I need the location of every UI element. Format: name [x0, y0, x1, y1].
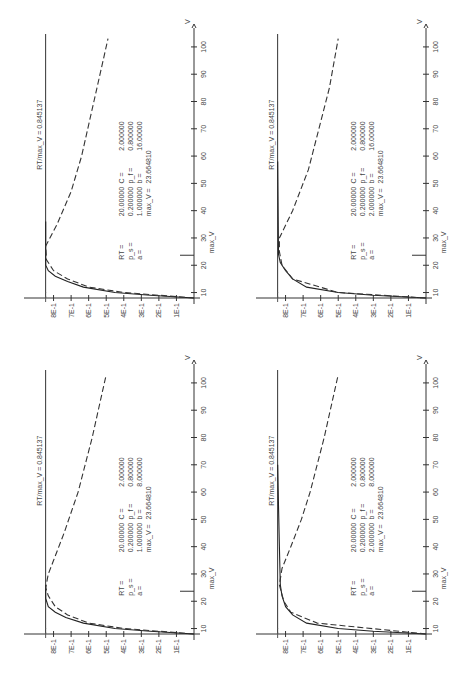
param-text: C =: [118, 172, 125, 183]
x-tick-label: 30: [200, 570, 207, 578]
max-v-marker-label: max_V: [440, 231, 448, 253]
reference-line-label: RT/max_V = 0.845137: [36, 436, 44, 506]
param-text: 2.000000: [118, 457, 125, 486]
param-text: b =: [136, 509, 143, 519]
x-tick-label: 60: [432, 488, 439, 496]
x-axis-label: V: [416, 355, 423, 360]
y-tick-label: 2E-1: [155, 639, 162, 654]
param-text: 23.664810: [145, 150, 152, 183]
x-tick-label: 40: [432, 543, 439, 551]
y-tick-label: 3E-1: [370, 303, 377, 318]
chart-panel-bottom-right: V1020304050607080901001E-12E-13E-14E-15E…: [232, 336, 464, 672]
y-tick-label: 7E-1: [68, 303, 75, 318]
y-tick-label: 8E-1: [50, 303, 57, 318]
x-tick-label: 70: [200, 461, 207, 469]
x-tick-label: 40: [200, 543, 207, 551]
param-text: 0.800000: [127, 457, 134, 486]
param-text: b =: [368, 173, 375, 183]
param-text: 1.000000: [136, 187, 143, 216]
x-tick-label: 20: [200, 261, 207, 269]
param-text: 1.000000: [136, 523, 143, 552]
param-text: a =: [136, 250, 143, 260]
x-tick-label: 10: [200, 289, 207, 297]
y-tick-label: 8E-1: [282, 303, 289, 318]
y-tick-label: 5E-1: [103, 303, 110, 318]
chart-svg: V1020304050607080901001E-12E-13E-14E-15E…: [0, 336, 232, 672]
x-tick-label: 40: [432, 207, 439, 215]
x-tick-label: 90: [200, 406, 207, 414]
param-text: a =: [368, 586, 375, 596]
param-text: C =: [350, 172, 357, 183]
x-tick-label: 40: [200, 207, 207, 215]
x-tick-label: 80: [432, 98, 439, 106]
param-text: p_s =: [359, 242, 367, 259]
param-text: 0.200000: [127, 187, 134, 216]
y-tick-label: 8E-1: [50, 639, 57, 654]
y-tick-label: 3E-1: [138, 639, 145, 654]
x-tick-label: 100: [200, 41, 207, 53]
x-tick-label: 70: [200, 125, 207, 133]
param-text: RT =: [350, 245, 357, 260]
param-text: 20.00000: [350, 523, 357, 552]
x-tick-label: 80: [432, 434, 439, 442]
param-text: 23.664810: [377, 486, 384, 519]
param-text: 2.000000: [350, 457, 357, 486]
param-text: a =: [368, 250, 375, 260]
param-text: RT =: [118, 581, 125, 596]
param-text: max_V =: [377, 524, 385, 552]
param-text: 0.800000: [127, 121, 134, 150]
param-text: p_f =: [359, 504, 367, 520]
param-text: max_V =: [377, 188, 385, 216]
param-text: 2.000000: [118, 121, 125, 150]
x-tick-label: 50: [200, 515, 207, 523]
param-text: 20.00000: [118, 523, 125, 552]
y-tick-label: 6E-1: [85, 639, 92, 654]
y-tick-label: 2E-1: [387, 303, 394, 318]
y-tick-label: 2E-1: [155, 303, 162, 318]
param-text: 2.000000: [368, 523, 375, 552]
x-tick-label: 30: [200, 234, 207, 242]
series-solid-line: [46, 222, 194, 298]
y-tick-label: 1E-1: [173, 639, 180, 654]
x-axis-label: V: [184, 19, 191, 24]
y-tick-label: 5E-1: [335, 303, 342, 318]
y-tick-label: 6E-1: [317, 303, 324, 318]
reference-line-label: RT/max_V = 0.845137: [268, 100, 276, 170]
y-tick-label: 3E-1: [370, 639, 377, 654]
param-text: p_f =: [359, 168, 367, 184]
x-tick-label: 90: [200, 70, 207, 78]
y-tick-label: 5E-1: [335, 639, 342, 654]
reference-line-label: RT/max_V = 0.845137: [36, 100, 44, 170]
param-text: C =: [350, 508, 357, 519]
y-tick-label: 1E-1: [405, 303, 412, 318]
chart-panel-top-right: V1020304050607080901001E-12E-13E-14E-15E…: [232, 0, 464, 336]
param-text: b =: [368, 509, 375, 519]
param-text: 0.200000: [127, 523, 134, 552]
x-tick-label: 90: [432, 70, 439, 78]
param-text: 0.800000: [359, 121, 366, 150]
x-tick-label: 100: [432, 41, 439, 53]
x-tick-label: 80: [200, 434, 207, 442]
y-tick-label: 4E-1: [120, 303, 127, 318]
x-tick-label: 20: [200, 597, 207, 605]
x-tick-label: 60: [432, 152, 439, 160]
param-text: 0.200000: [359, 523, 366, 552]
param-text: RT =: [118, 245, 125, 260]
param-text: 16.00000: [136, 121, 143, 150]
chart-panel-bottom-left: V1020304050607080901001E-12E-13E-14E-15E…: [0, 336, 232, 672]
y-tick-label: 8E-1: [282, 639, 289, 654]
x-tick-label: 90: [432, 406, 439, 414]
chart-panel-top-left: V1020304050607080901001E-12E-13E-14E-15E…: [0, 0, 232, 336]
param-text: max_V =: [145, 524, 153, 552]
y-tick-label: 6E-1: [317, 639, 324, 654]
param-text: 20.00000: [118, 187, 125, 216]
y-tick-label: 6E-1: [85, 303, 92, 318]
param-text: max_V =: [145, 188, 153, 216]
param-text: a =: [136, 586, 143, 596]
param-text: p_s =: [359, 578, 367, 595]
x-tick-label: 10: [432, 289, 439, 297]
param-text: 2.000000: [368, 187, 375, 216]
x-tick-label: 20: [432, 597, 439, 605]
param-text: 8.000000: [368, 457, 375, 486]
x-tick-label: 10: [432, 625, 439, 633]
